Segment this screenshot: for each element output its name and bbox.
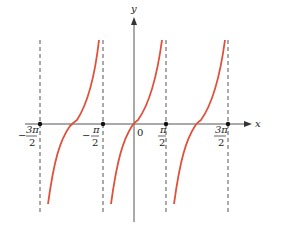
svg-text:2: 2	[218, 137, 224, 148]
svg-text:3π: 3π	[26, 124, 39, 135]
svg-text:π: π	[92, 124, 100, 135]
tan-branch-3	[174, 40, 225, 204]
tangent-graph: y x 0 − 3π 2 − π 2 π 2 3π 2	[0, 0, 282, 233]
svg-text:3π: 3π	[215, 124, 228, 135]
tan-curves	[48, 40, 225, 204]
svg-text:2: 2	[159, 137, 165, 148]
y-axis-label: y	[130, 3, 137, 14]
tick-label-neg-3pi-2: − 3π 2	[18, 124, 39, 148]
tan-branch-2	[111, 40, 162, 204]
y-axis-arrow-icon	[131, 17, 137, 25]
svg-text:π: π	[159, 124, 167, 135]
tan-branch-1	[48, 40, 99, 204]
x-axis-arrow-icon	[244, 121, 252, 127]
origin-label: 0	[137, 127, 143, 138]
x-axis-label: x	[255, 118, 261, 129]
tick-label-neg-pi-2: − π 2	[82, 124, 100, 148]
svg-text:2: 2	[92, 137, 98, 148]
svg-text:2: 2	[29, 137, 35, 148]
tick-label-pi-2: π 2	[158, 124, 167, 148]
svg-text:−: −	[82, 130, 90, 141]
tick-label-3pi-2: 3π 2	[214, 124, 228, 148]
